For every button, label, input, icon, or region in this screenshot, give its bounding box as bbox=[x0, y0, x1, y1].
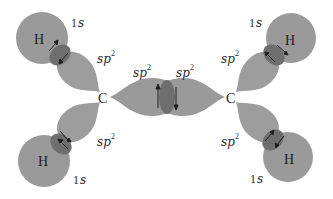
svg-text:1: 1 bbox=[250, 172, 256, 186]
svg-text:s: s bbox=[80, 173, 86, 187]
overlap-center bbox=[159, 80, 175, 114]
svg-text:sp: sp bbox=[97, 135, 111, 149]
svg-text:sp: sp bbox=[176, 66, 190, 80]
hydrogen-label-top-right: H bbox=[285, 33, 295, 48]
svg-text:2: 2 bbox=[111, 132, 115, 141]
label-sp2-center-right: sp 2 bbox=[176, 63, 194, 80]
label-1s-bottom-right: 1 s bbox=[250, 172, 263, 186]
label-sp2-left-upper: sp 2 bbox=[97, 49, 115, 66]
hydrogen-label-top-left: H bbox=[34, 32, 44, 47]
hydrogen-label-bottom-right: H bbox=[284, 152, 294, 167]
hydrogen-label-bottom-left: H bbox=[38, 154, 48, 169]
svg-text:s: s bbox=[78, 16, 84, 30]
ethylene-orbital-diagram: C C H H H H 1 s 1 s 1 s 1 s sp 2 sp 2 sp… bbox=[0, 0, 333, 199]
svg-text:sp: sp bbox=[221, 52, 235, 66]
svg-text:sp: sp bbox=[97, 52, 111, 66]
svg-text:sp: sp bbox=[133, 66, 147, 80]
label-sp2-right-lower: sp 2 bbox=[221, 132, 239, 149]
label-sp2-left-lower: sp 2 bbox=[97, 132, 115, 149]
carbon-label-right: C bbox=[226, 91, 235, 106]
carbon-label-left: C bbox=[98, 91, 107, 106]
svg-text:sp: sp bbox=[221, 135, 235, 149]
svg-text:2: 2 bbox=[235, 132, 239, 141]
svg-text:2: 2 bbox=[111, 49, 115, 58]
svg-text:2: 2 bbox=[147, 63, 151, 72]
svg-text:s: s bbox=[256, 16, 262, 30]
label-1s-top-left: 1 s bbox=[71, 16, 84, 30]
svg-text:1: 1 bbox=[73, 173, 79, 187]
svg-text:1: 1 bbox=[71, 16, 77, 30]
svg-text:s: s bbox=[257, 172, 263, 186]
svg-text:2: 2 bbox=[235, 49, 239, 58]
svg-text:1: 1 bbox=[249, 16, 255, 30]
label-sp2-center-left: sp 2 bbox=[133, 63, 151, 80]
label-1s-bottom-left: 1 s bbox=[73, 173, 86, 187]
label-1s-top-right: 1 s bbox=[249, 16, 262, 30]
label-sp2-right-upper: sp 2 bbox=[221, 49, 239, 66]
svg-text:2: 2 bbox=[190, 63, 194, 72]
